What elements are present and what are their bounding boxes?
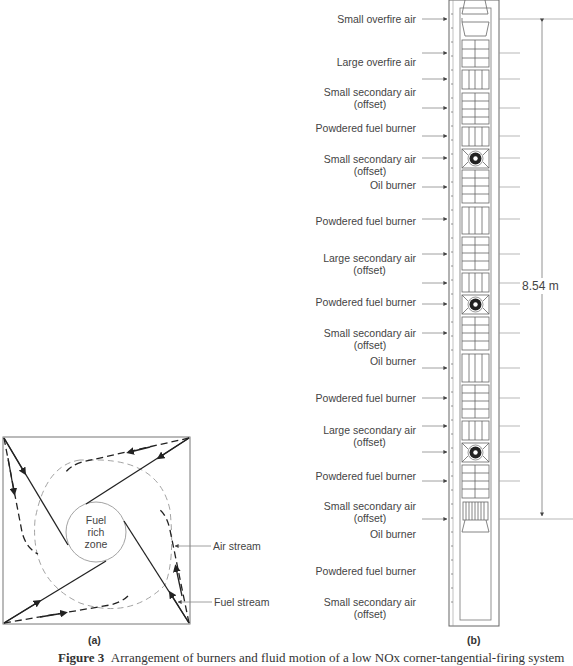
port-label: Small secondary air(offset) (324, 86, 416, 110)
caption-prefix: Figure 3 (58, 650, 104, 665)
fuel-rich-line-2: rich (80, 526, 112, 538)
fuel-rich-line-3: zone (80, 538, 112, 550)
port-label: Powdered fuel burner (316, 470, 416, 482)
port-label: Powdered fuel burner (316, 296, 416, 308)
port-label: Large secondary air(offset) (323, 424, 416, 448)
port-label: Powdered fuel burner (316, 122, 416, 134)
oil-burner-icons (468, 151, 483, 460)
port-label: Small overfire air (337, 13, 416, 25)
panel-b-sublabel: (b) (467, 634, 480, 646)
height-dimension-label: 8.54 m (522, 278, 559, 294)
port-label: Small secondary air(offset) (324, 596, 416, 620)
figure-caption: Figure 3 Arrangement of burners and flui… (58, 650, 564, 666)
port-label: Large secondary air(offset) (323, 252, 416, 276)
port-label: Large overfire air (337, 56, 416, 68)
panel-a-sublabel: (a) (88, 634, 101, 646)
caption-text: Arrangement of burners and fluid motion … (111, 650, 565, 665)
port-label: Small secondary air(offset) (324, 153, 416, 177)
air-stream-label: Air stream (213, 540, 261, 552)
panel-b-diagram (422, 0, 573, 626)
port-label: Powdered fuel burner (316, 392, 416, 404)
port-label: Small secondary air(offset) (324, 327, 416, 351)
port-label: Oil burner (370, 355, 416, 367)
port-label: Powdered fuel burner (316, 215, 416, 227)
port-label: Powdered fuel burner (316, 565, 416, 577)
port-label: Oil burner (370, 179, 416, 191)
fuel-rich-line-1: Fuel (80, 514, 112, 526)
fuel-rich-zone-label: Fuel rich zone (80, 514, 112, 550)
port-label: Small secondary air(offset) (324, 500, 416, 524)
fuel-stream-label: Fuel stream (214, 596, 269, 608)
port-label: Oil burner (370, 528, 416, 540)
